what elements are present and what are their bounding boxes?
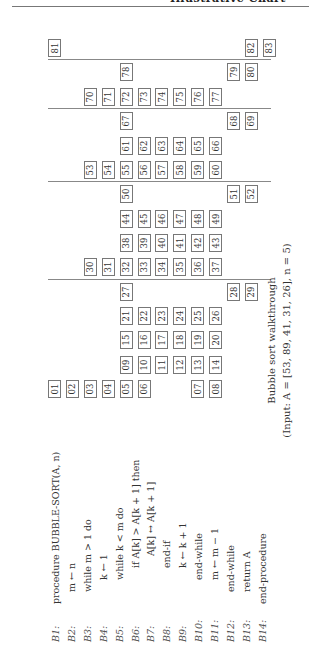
step-box: 63 [155,137,168,155]
step-box: 14 [209,356,222,374]
step-number: 83 [264,43,274,54]
step-number: 05 [121,384,131,395]
line-label: B14: [257,604,268,642]
step-box: 29 [245,283,258,301]
step-box: 47 [173,210,186,228]
step-number: 33 [139,262,149,273]
step-box: 20 [209,331,222,349]
step-box: 16 [138,331,151,349]
step-box: 45 [138,210,151,228]
header-rule [12,6,309,7]
step-number: 27 [121,286,131,297]
step-box: 55 [120,161,133,179]
code-line: B14:end-procedure [257,533,268,642]
step-box: 07 [191,380,204,398]
step-number: 81 [50,43,60,54]
step-box: 81 [48,39,61,57]
step-number: 11 [157,359,167,370]
step-box: 15 [120,331,133,349]
step-box: 62 [138,137,151,155]
line-label: B13: [241,604,252,642]
line-text: m ← n [66,563,77,604]
step-number: 79 [229,67,239,78]
step-number: 23 [157,311,167,322]
step-box: 68 [227,112,240,130]
line-text: end-if [161,540,172,604]
step-number: 29 [246,286,256,297]
step-number: 60 [211,164,221,175]
step-box: 43 [209,234,222,252]
step-box: 31 [102,258,115,276]
step-number: 66 [211,140,221,151]
step-number: 76 [193,91,203,102]
step-box: 04 [102,380,115,398]
step-box: 01 [48,380,61,398]
step-box: 36 [191,258,204,276]
step-box: 12 [173,356,186,374]
step-box: 18 [173,331,186,349]
step-box: 53 [84,161,97,179]
code-line: B5:while k < m do [114,507,125,642]
step-box: 77 [209,88,222,106]
line-text: k ← 1 [98,554,109,604]
step-box: 57 [155,161,168,179]
code-line: B10:end-while [193,533,204,642]
line-text: k ← k + 1 [177,522,188,604]
step-number: 01 [50,384,60,395]
step-box: 11 [155,356,168,374]
line-label: B9: [177,604,188,642]
step-box: 26 [209,307,222,325]
step-number: 75 [175,91,185,102]
step-number: 13 [193,359,203,370]
code-line: B6:if A[k] > A[k + 1] then [130,460,141,642]
step-number: 19 [193,335,203,346]
step-box: 37 [209,258,222,276]
line-text: m ← m − 1 [209,528,220,604]
step-box: 17 [155,331,168,349]
step-box: 67 [120,112,133,130]
caption-title: Bubble sort walkthrough [266,277,277,403]
caption-input: (Input: A = [53, 89, 41, 31, 26], n = 5) [281,243,292,437]
step-number: 72 [121,91,131,102]
step-number: 28 [229,286,239,297]
step-box: 32 [120,258,133,276]
step-box: 44 [120,210,133,228]
step-number: 67 [121,116,131,127]
step-number: 55 [121,164,131,175]
step-box: 27 [120,283,133,301]
step-box: 41 [173,234,186,252]
line-label: B11: [209,604,220,642]
step-number: 15 [121,335,131,346]
step-box: 80 [245,63,258,81]
step-box: 71 [102,88,115,106]
step-box: 38 [120,234,133,252]
line-label: B8: [161,604,172,642]
step-box: 76 [191,88,204,106]
step-number: 09 [121,359,131,370]
step-box: 75 [173,88,186,106]
line-label: B10: [193,604,204,642]
step-number: 21 [121,311,131,322]
code-line: B4:k ← 1 [98,554,109,642]
line-text: procedure BUBBLE-SORT(A, n) [50,452,61,604]
iteration-separator [48,108,271,109]
line-label: B7: [145,604,156,642]
line-text: while k < m do [114,507,125,604]
step-number: 04 [103,384,113,395]
step-box: 46 [155,210,168,228]
line-label: B1: [50,604,61,642]
line-text: end-while [225,545,236,604]
step-number: 63 [157,140,167,151]
step-box: 65 [191,137,204,155]
step-number: 68 [229,116,239,127]
step-number: 61 [121,140,131,151]
step-box: 39 [138,234,151,252]
step-number: 78 [121,67,131,78]
step-number: 74 [157,91,167,102]
step-number: 34 [157,262,167,273]
step-box: 51 [227,185,240,203]
step-box: 35 [173,258,186,276]
step-number: 40 [157,237,167,248]
step-number: 17 [157,335,167,346]
step-box: 74 [155,88,168,106]
